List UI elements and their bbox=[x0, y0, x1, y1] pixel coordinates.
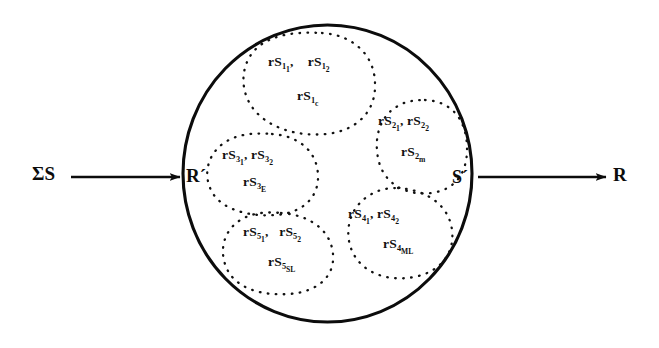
cluster-3-row-1: rS31, rS32 bbox=[222, 148, 273, 167]
cluster-4-row-2: rS4ML bbox=[383, 237, 413, 256]
cluster-1-row-1: rS11, rS12 bbox=[268, 55, 330, 74]
cluster-5-row-2: rS5SL bbox=[268, 255, 295, 274]
cluster-4-row-1: rS41, rS42 bbox=[348, 207, 399, 226]
cluster-2-row-2: rS2m bbox=[401, 145, 425, 164]
diagram-canvas: ΣS R´ S´ R rS11, rS12 rS1c rS21, rS22 rS… bbox=[0, 0, 659, 348]
output-label: R bbox=[613, 165, 627, 184]
output-boundary-label: S´ bbox=[452, 168, 468, 186]
cluster-2-row-1: rS21, rS22 bbox=[378, 114, 429, 133]
cluster-1-row-2: rS1c bbox=[297, 89, 318, 108]
diagram-svg bbox=[0, 0, 659, 348]
cluster-5-row-1: rS51, rS52 bbox=[243, 225, 301, 244]
input-boundary-label: R´ bbox=[186, 166, 206, 185]
cluster-3-row-2: rS3E bbox=[243, 175, 266, 194]
input-label: ΣS bbox=[32, 164, 55, 183]
